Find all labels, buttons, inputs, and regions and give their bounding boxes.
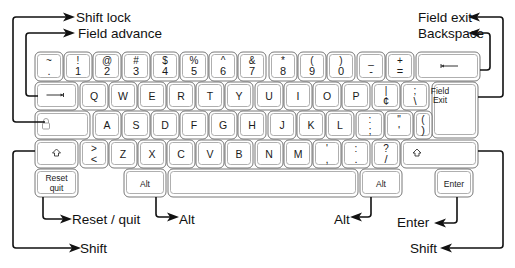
key-g[interactable]: G [209, 111, 237, 139]
key-space[interactable] [168, 169, 358, 197]
key-bottom-legend: 2 [104, 65, 110, 77]
key-legend-line1: Reset [45, 173, 68, 183]
key-legend-line2: quit [50, 183, 64, 193]
key-x[interactable]: X [138, 140, 166, 168]
key-cent[interactable]: |¢ [372, 82, 400, 110]
key-s[interactable]: S [122, 111, 150, 139]
key-legend: G [219, 119, 227, 131]
callout-label: Enter [397, 215, 430, 230]
callout-enter: Enter [397, 197, 457, 230]
key-comma[interactable]: ', [313, 140, 341, 168]
key-equals[interactable]: += [386, 52, 414, 81]
key-2[interactable]: @2 [93, 52, 121, 81]
key-alt-right[interactable]: Alt [360, 169, 402, 197]
callout-label: Alt [334, 212, 350, 227]
key-legend: V [206, 148, 213, 160]
key-f[interactable]: F [180, 111, 208, 139]
key-shift-right[interactable] [401, 140, 478, 168]
callout-label: Reset / quit [72, 212, 141, 227]
keyboard-keys: ~.!1@2#3$4%5^6&7*8(9)0_-+=QWERTYUIOP|¢;\… [35, 52, 480, 197]
key-slash[interactable]: ?/ [372, 140, 400, 168]
key-tilde[interactable]: ~. [35, 52, 63, 81]
key-3[interactable]: #3 [122, 52, 150, 81]
key-lock[interactable] [35, 111, 90, 139]
key-bottom-legend: 5 [191, 65, 197, 77]
key-0[interactable]: )0 [327, 52, 355, 81]
key-b[interactable]: B [225, 140, 253, 168]
key-bottom-legend: 7 [249, 65, 255, 77]
key-legend: D [161, 119, 169, 131]
key-enter[interactable]: Enter [435, 169, 473, 197]
key-legend: Enter [444, 179, 464, 189]
key-j[interactable]: J [268, 111, 296, 139]
key-shift-left[interactable] [35, 140, 78, 168]
key-r[interactable]: R [167, 82, 195, 110]
key-legend-line2: Exit [433, 95, 448, 105]
callout-label: Shift [80, 241, 107, 256]
key-z[interactable]: Z [109, 140, 137, 168]
key-legend: Z [120, 148, 127, 160]
key-legend: O [323, 90, 331, 102]
key-bottom-legend: 8 [280, 65, 286, 77]
key-e[interactable]: E [138, 82, 166, 110]
key-legend: S [132, 119, 139, 131]
key-c[interactable]: C [167, 140, 195, 168]
key-6[interactable]: ^6 [209, 52, 237, 81]
key-bottom-legend: = [397, 65, 403, 77]
callout-reset-quit: Reset / quit [43, 197, 141, 227]
key-bottom-legend: 4 [162, 65, 168, 77]
key-legend: I [297, 90, 300, 102]
key-bottom-legend: , [325, 153, 328, 165]
key-n[interactable]: N [255, 140, 283, 168]
key-legend: W [118, 90, 128, 102]
key-v[interactable]: V [196, 140, 224, 168]
key-l[interactable]: L [326, 111, 354, 139]
key-bottom-legend: ' [398, 124, 400, 136]
key-angle[interactable]: >< [80, 140, 108, 168]
key-k[interactable]: K [297, 111, 325, 139]
key-backslash[interactable]: ;\ [401, 82, 429, 110]
key-i[interactable]: I [284, 82, 312, 110]
key-legend: K [307, 119, 314, 131]
callout-label: Field advance [78, 26, 162, 41]
key-q[interactable]: Q [80, 82, 108, 110]
key-brace[interactable]: () [414, 111, 432, 139]
key-p[interactable]: P [342, 82, 370, 110]
key-h[interactable]: H [238, 111, 266, 139]
key-o[interactable]: O [313, 82, 341, 110]
key-4[interactable]: $4 [151, 52, 179, 81]
key-backspace[interactable] [416, 52, 480, 81]
key-t[interactable]: T [196, 82, 224, 110]
key-1[interactable]: !1 [64, 52, 92, 81]
key-d[interactable]: D [151, 111, 179, 139]
key-y[interactable]: Y [225, 82, 253, 110]
key-a[interactable]: A [93, 111, 121, 139]
key-bottom-legend: 0 [338, 65, 344, 77]
key-5[interactable]: %5 [180, 52, 208, 81]
key-bottom-legend: . [354, 153, 357, 165]
key-alt-left[interactable]: Alt [124, 169, 166, 197]
callout-label: Shift [410, 241, 437, 256]
key-reset[interactable]: Resetquit [35, 169, 78, 197]
key-minus[interactable]: _- [357, 52, 385, 81]
key-legend: Alt [376, 179, 387, 189]
key-9[interactable]: (9 [298, 52, 326, 81]
key-bottom-legend: 3 [133, 65, 139, 77]
key-semicolon[interactable]: :; [356, 111, 384, 139]
keyboard-diagram: ~.!1@2#3$4%5^6&7*8(9)0_-+=QWERTYUIOP|¢;\… [0, 0, 515, 268]
key-field-exit[interactable]: FieldExit [431, 82, 478, 138]
key-legend: T [207, 90, 214, 102]
key-bottom-legend: . [47, 65, 50, 77]
key-period[interactable]: :. [342, 140, 370, 168]
key-7[interactable]: &7 [238, 52, 266, 81]
key-bottom-legend: 9 [309, 65, 315, 77]
key-8[interactable]: *8 [269, 52, 297, 81]
key-m[interactable]: M [284, 140, 312, 168]
key-legend: Y [235, 90, 242, 102]
key-w[interactable]: W [109, 82, 137, 110]
key-u[interactable]: U [255, 82, 283, 110]
key-bottom-legend: 6 [220, 65, 226, 77]
key-tab[interactable] [35, 82, 78, 110]
key-bottom-legend: 1 [75, 65, 81, 77]
key-quote[interactable]: "' [385, 111, 413, 139]
